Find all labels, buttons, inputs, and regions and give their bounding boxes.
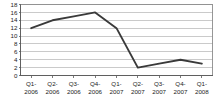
y-tick-label: 12	[11, 24, 18, 31]
y-tick-label: 10	[11, 32, 18, 39]
x-axis-tick-labels: Q1-2006Q2-2006Q3-2006Q4-2006Q1-2007Q2-20…	[24, 80, 209, 95]
y-tick-label: 14	[11, 16, 18, 23]
y-tick-label: 16	[11, 9, 18, 16]
y-tick-label: 4	[14, 56, 18, 63]
y-tick-label: 6	[14, 48, 18, 55]
y-tick-label: 18	[11, 1, 18, 8]
y-tick-label: 2	[14, 64, 18, 71]
y-tick-label: 8	[14, 40, 18, 47]
chart-canvas: 024681012141618 Q1-2006Q2-2006Q3-2006Q4-…	[0, 0, 218, 106]
y-tick-label: 0	[14, 72, 18, 79]
line-chart: 024681012141618 Q1-2006Q2-2006Q3-2006Q4-…	[0, 0, 218, 106]
